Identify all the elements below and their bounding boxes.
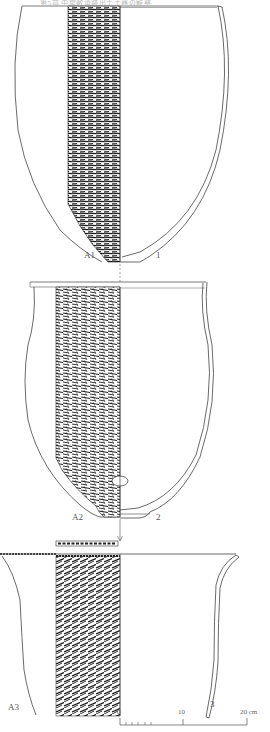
scale-tick-20: 20 cm (240, 709, 257, 716)
pottery-figure (0, 0, 270, 732)
vessel-1-drawing (15, 6, 229, 282)
rubbing-label-a2: A2 (72, 513, 83, 522)
vessel-2-drawing (25, 282, 214, 541)
scale-tick-10: 10 (178, 709, 185, 716)
scale-bar (120, 718, 247, 725)
rubbing-label-a1: A1 (84, 251, 95, 260)
vessel-3-drawing (0, 541, 239, 718)
vessel-number-3: 3 (210, 700, 215, 709)
vessel-number-2: 2 (156, 513, 161, 522)
scale-tick-0: 0 (117, 709, 121, 716)
vessel-number-1: 1 (156, 251, 161, 260)
rubbing-label-a3: A3 (8, 703, 19, 712)
